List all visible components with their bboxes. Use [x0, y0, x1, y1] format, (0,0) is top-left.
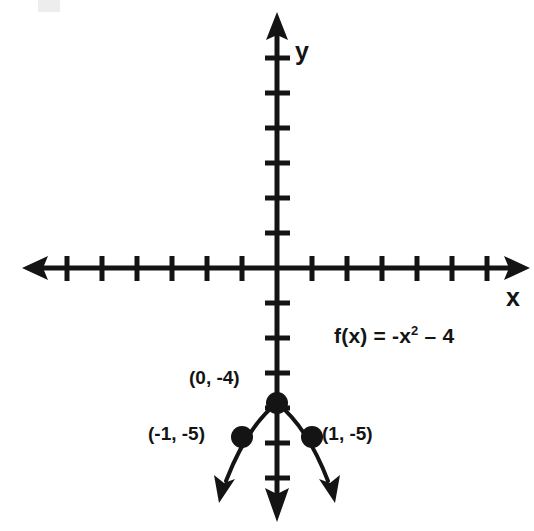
function-equation-label: f(x) = -x2 – 4: [334, 325, 454, 346]
x-axis-label: x: [506, 285, 520, 310]
function-label-suffix: – 4: [419, 324, 455, 347]
y-axis-label: y: [295, 39, 309, 64]
point-marker-left: [231, 426, 253, 448]
parabola-left-arrowhead: [214, 475, 235, 503]
parabola-graph-figure: y x f(x) = -x2 – 4 (0, -4) (-1, -5) (1, …: [0, 0, 534, 531]
point-label-right: (1, -5): [322, 424, 373, 443]
function-label-prefix: f(x) = -x: [334, 324, 411, 347]
parabola-right-arrowhead: [319, 475, 340, 503]
point-label-vertex: (0, -4): [189, 368, 240, 387]
function-label-exponent: 2: [411, 323, 418, 338]
coordinate-plane: [0, 0, 534, 531]
point-marker-right: [301, 426, 323, 448]
point-label-left: (-1, -5): [148, 424, 205, 443]
point-marker-vertex: [266, 392, 288, 414]
